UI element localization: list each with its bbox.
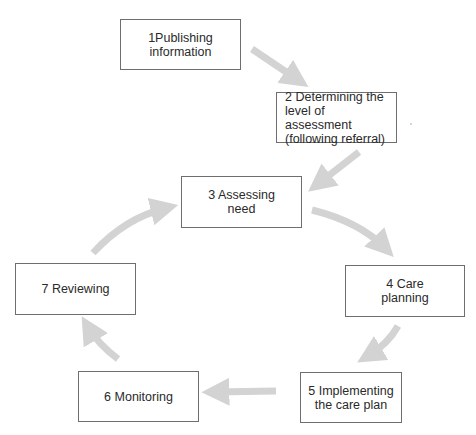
step-7-label: 7 Reviewing: [41, 282, 109, 296]
step-3-label: 3 Assessing need: [208, 188, 275, 216]
step-5-label: 5 Implementing the care plan: [308, 384, 393, 412]
step-6-monitoring: 6 Monitoring: [78, 371, 199, 422]
step-4-label: 4 Care planning: [381, 277, 428, 305]
arrow-2-to-3: [318, 152, 359, 184]
scan-artifact-dot: [410, 123, 412, 125]
step-3-assessing-need: 3 Assessing need: [181, 176, 302, 228]
step-1-publishing-information: 1Publishing information: [120, 19, 241, 70]
arrow-1-to-2: [252, 49, 298, 80]
arrow-7-to-3: [93, 208, 166, 253]
arrow-4-to-5: [368, 326, 398, 356]
step-7-reviewing: 7 Reviewing: [15, 263, 136, 315]
step-5-implementing-care-plan: 5 Implementing the care plan: [300, 372, 402, 423]
arrow-5-to-6: [214, 391, 276, 392]
arrow-6-to-7: [88, 327, 118, 359]
care-management-cycle-diagram: 1Publishing information 2 Determining th…: [0, 0, 476, 435]
step-4-care-planning: 4 Care planning: [345, 265, 465, 317]
step-2-label: 2 Determining the level of assessment (f…: [285, 90, 392, 146]
step-6-label: 6 Monitoring: [104, 390, 173, 404]
step-1-label: 1Publishing information: [148, 31, 213, 59]
arrow-3-to-4: [312, 210, 385, 248]
step-2-determining-assessment-level: 2 Determining the level of assessment (f…: [276, 92, 397, 143]
